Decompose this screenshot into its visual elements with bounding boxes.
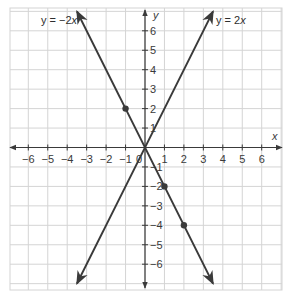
x-tick-label: −4 — [61, 153, 74, 165]
coordinate-plane: −6−5−4−3−2−11234560−6−5−4−3−2−1123456 x … — [0, 0, 293, 295]
equation-label-2x: y = 2x — [216, 14, 246, 26]
x-tick-label: −2 — [100, 153, 113, 165]
y-tick-label: −4 — [150, 219, 163, 231]
x-tick-label: −5 — [41, 153, 54, 165]
y-tick-label: 5 — [150, 44, 156, 56]
y-axis-label: y — [152, 9, 160, 21]
y-tick-label: −1 — [150, 161, 163, 173]
x-axis-label: x — [271, 130, 278, 142]
x-tick-label: 5 — [239, 153, 245, 165]
x-tick-label: 2 — [181, 153, 187, 165]
y-tick-label: 4 — [150, 64, 156, 76]
y-tick-label: 2 — [150, 103, 156, 115]
equation-label-neg-2x: y = −2x — [41, 14, 78, 26]
x-tick-label: 4 — [220, 153, 226, 165]
origin-label: 0 — [136, 153, 142, 165]
y-tick-label: 3 — [150, 83, 156, 95]
x-tick-label: 6 — [259, 153, 265, 165]
x-tick-label: −3 — [80, 153, 93, 165]
y-tick-label: −5 — [150, 239, 163, 251]
x-tick-label: −1 — [119, 153, 132, 165]
data-point — [122, 105, 128, 111]
y-tick-label: 6 — [150, 25, 156, 37]
x-tick-label: −6 — [22, 153, 35, 165]
y-tick-label: −3 — [150, 200, 163, 212]
x-tick-label: 3 — [200, 153, 206, 165]
data-point — [181, 222, 187, 228]
y-tick-label: −6 — [150, 258, 163, 270]
y-tick-label: −2 — [150, 180, 163, 192]
y-tick-label: 1 — [150, 122, 156, 134]
